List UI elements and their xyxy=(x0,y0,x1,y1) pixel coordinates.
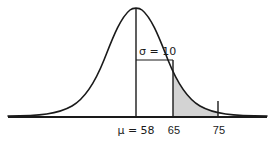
mean-axis-label: μ = 58 xyxy=(117,124,154,137)
shaded-probability-area xyxy=(173,0,218,117)
normal-distribution-figure: σ = 10 μ = 58 65 75 xyxy=(0,0,275,168)
sigma-label: σ = 10 xyxy=(139,45,176,58)
upper-bound-axis-label: 75 xyxy=(213,124,226,136)
distribution-chart-canvas: σ = 10 μ = 58 65 75 xyxy=(0,0,275,168)
lower-bound-axis-label: 65 xyxy=(168,124,181,136)
normal-curve xyxy=(8,8,267,116)
